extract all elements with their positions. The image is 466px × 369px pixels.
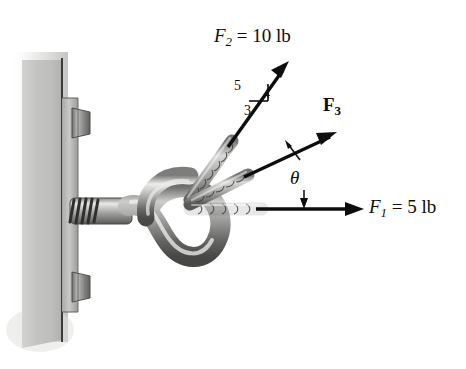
force-label-f3-symbol: F <box>323 94 335 115</box>
wall-surface <box>22 58 62 348</box>
slope-label-vertical: 4 <box>263 87 270 101</box>
force-vector-f1 <box>256 202 364 216</box>
force-label-f1-value: = 5 lb <box>387 196 436 217</box>
force-label-f1: F1 = 5 lb <box>369 197 436 220</box>
force-label-f1-symbol: F <box>369 196 381 217</box>
force-diagram <box>0 0 466 369</box>
force-label-f2-symbol: F <box>214 25 226 46</box>
force-label-f2: F2 = 10 lb <box>214 26 291 49</box>
hex-nut-lower <box>72 272 90 302</box>
force-vector-f2 <box>228 61 289 147</box>
slope-label-horizontal: 3 <box>244 104 251 118</box>
hex-nut-upper <box>72 108 90 138</box>
force-label-f3: F3 <box>323 95 341 118</box>
force-label-f3-subscript: 3 <box>335 103 341 118</box>
force-label-f2-value: = 10 lb <box>232 25 291 46</box>
angle-label-theta: θ <box>290 168 299 187</box>
rope-f1 <box>190 204 262 214</box>
slope-label-hypotenuse: 5 <box>234 79 241 93</box>
